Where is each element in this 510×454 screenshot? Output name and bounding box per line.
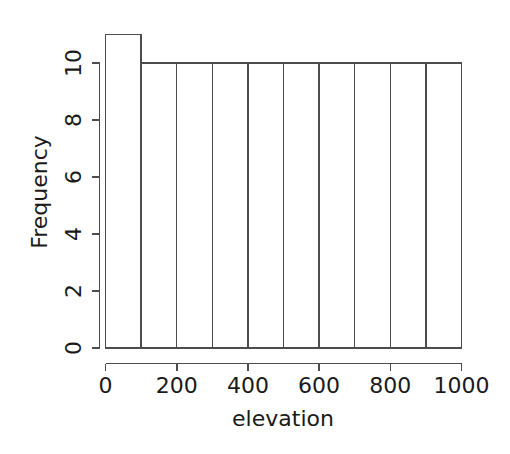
y-axis-tick-label: 8: [61, 113, 86, 127]
histogram-bars: [106, 35, 462, 349]
y-axis-tick-label: 10: [61, 49, 86, 77]
y-axis-tick-label: 4: [61, 227, 86, 241]
histogram-bar: [355, 63, 391, 348]
histogram-figure: 0246810 02004006008001000 Frequency elev…: [0, 0, 510, 454]
histogram-bar: [319, 63, 355, 348]
y-axis-tick-label: 2: [61, 284, 86, 298]
y-axis-title: Frequency: [27, 135, 52, 249]
histogram-bar: [177, 63, 213, 348]
x-axis-tick-label: 0: [99, 373, 113, 398]
histogram-bar: [390, 63, 426, 348]
x-axis-tick-label: 800: [369, 373, 411, 398]
histogram-bar: [212, 63, 248, 348]
x-axis-tick-label: 400: [227, 373, 269, 398]
y-axis-tick-label: 0: [61, 341, 86, 355]
histogram-bar: [141, 63, 177, 348]
y-axis-tick-label: 6: [61, 170, 86, 184]
x-axis-title: elevation: [232, 406, 334, 431]
x-axis-tick-label: 200: [156, 373, 198, 398]
histogram-plot-svg: 0246810 02004006008001000 Frequency elev…: [0, 0, 510, 454]
histogram-bar: [248, 63, 284, 348]
histogram-bar: [426, 63, 462, 348]
x-axis-tick-label: 1000: [434, 373, 490, 398]
histogram-bar: [106, 35, 142, 349]
x-axis-tick-label: 600: [298, 373, 340, 398]
histogram-bar: [284, 63, 320, 348]
